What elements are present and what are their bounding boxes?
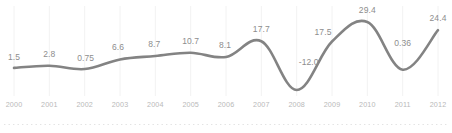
data-label: -12.0	[299, 58, 319, 67]
x-tick-label-2004: 2004	[147, 101, 164, 108]
data-label: 6.6	[112, 43, 124, 52]
x-tick-label-2009: 2009	[324, 101, 341, 108]
data-label: 0.36	[394, 38, 411, 47]
data-label: 2.8	[43, 49, 55, 58]
line-chart: 1.52.80.756.68.710.78.117.7-12.017.529.4…	[0, 0, 452, 133]
x-tick-label-2008: 2008	[288, 101, 305, 108]
x-tick-label-2001: 2001	[41, 101, 58, 108]
x-tick-label-2000: 2000	[6, 101, 23, 108]
data-label: 29.4	[359, 6, 376, 15]
data-label: 24.4	[430, 14, 447, 23]
x-tick-label-2012: 2012	[430, 101, 447, 108]
data-label: 0.75	[77, 54, 94, 63]
x-tick-label-2011: 2011	[395, 101, 411, 108]
data-label: 17.5	[315, 27, 332, 36]
chart-plot-area	[0, 0, 452, 133]
data-label: 17.7	[253, 25, 270, 34]
x-tick-label-2003: 2003	[112, 101, 129, 108]
data-label: 1.5	[8, 53, 20, 62]
data-label: 8.1	[219, 41, 231, 50]
x-tick-label-2002: 2002	[76, 101, 93, 108]
data-label: 10.7	[182, 36, 199, 45]
data-label: 8.7	[148, 40, 160, 49]
x-tick-label-2005: 2005	[182, 101, 199, 108]
gridlines	[14, 6, 438, 96]
x-tick-label-2010: 2010	[359, 101, 376, 108]
x-tick-label-2007: 2007	[253, 101, 270, 108]
x-tick-label-2006: 2006	[218, 101, 235, 108]
